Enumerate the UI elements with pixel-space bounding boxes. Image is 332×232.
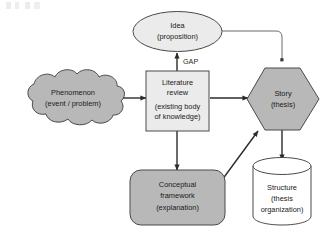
node-phenomenon-line-1: (event / problem): [45, 99, 101, 108]
node-literature-line-0: Literature: [162, 78, 193, 87]
edge-label-gap: GAP: [183, 57, 198, 66]
node-phenomenon[interactable]: Phenomenon (event / problem): [28, 70, 125, 125]
node-idea[interactable]: Idea (proposition): [133, 12, 222, 52]
node-literature-line-1: review: [167, 88, 189, 97]
node-literature-review[interactable]: Literature review (existing body of know…: [146, 71, 209, 131]
node-literature-line-3: of knowledge): [154, 112, 200, 121]
diagram-canvas: Idea (proposition) Phenomenon (event / p…: [0, 0, 332, 232]
diagram-svg: Idea (proposition) Phenomenon (event / p…: [0, 0, 332, 232]
node-idea-line-1: (proposition): [157, 32, 198, 41]
node-structure-line-2: organization): [261, 205, 304, 214]
node-story-line-0: Story: [274, 89, 292, 98]
node-structure[interactable]: Structure (thesis organization): [253, 158, 311, 226]
node-story[interactable]: Story (thesis): [247, 68, 319, 130]
node-framework-line-1: framework: [160, 191, 195, 200]
node-structure-line-1: (thesis: [271, 194, 293, 203]
edge-idea-to-story: [222, 31, 282, 60]
node-idea-line-0: Idea: [170, 21, 185, 30]
node-framework-line-2: (explanation): [156, 203, 199, 212]
node-structure-line-0: Structure: [267, 183, 297, 192]
node-framework-line-0: Conceptual: [159, 180, 197, 189]
node-phenomenon-line-0: Phenomenon: [51, 88, 95, 97]
node-literature-line-2: (existing body: [155, 102, 201, 111]
node-conceptual-framework[interactable]: Conceptual framework (explanation): [130, 170, 225, 225]
node-story-line-1: (thesis): [271, 100, 295, 109]
